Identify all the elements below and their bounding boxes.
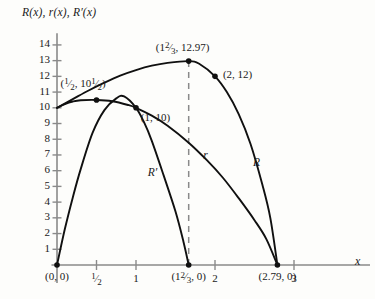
y-tick-label: 9 [14, 116, 50, 128]
curve-R [57, 61, 277, 265]
data-point-marker [212, 74, 218, 80]
y-tick-label: 10 [14, 100, 50, 112]
y-tick-label: 7 [14, 147, 50, 159]
data-point-label: (1⁄2, 101⁄2) [38, 77, 128, 89]
data-point-label: (0, 0) [12, 270, 102, 282]
curve-label-R: R [253, 156, 260, 168]
x-axis-title: x [355, 254, 361, 269]
data-point-marker [54, 262, 60, 268]
data-point-label: (12⁄3, 12.97) [156, 41, 210, 53]
curve-label-R: R′ [148, 166, 158, 178]
y-tick-label: 14 [14, 37, 50, 49]
data-point-label: (1, 10) [141, 111, 170, 123]
y-tick-label: 2 [14, 226, 50, 238]
data-point-marker [186, 262, 192, 268]
data-point-marker [275, 262, 281, 268]
curve-label-r: r [203, 149, 207, 161]
figure-canvas: R(x), r(x), R′(x) 1234567891011121314 1⁄… [0, 0, 375, 299]
y-tick-label: 1 [14, 242, 50, 254]
y-tick-label: 4 [14, 195, 50, 207]
data-point-marker [133, 105, 139, 111]
data-point-label: (2, 12) [223, 68, 252, 80]
curve-r [57, 100, 277, 265]
data-point-marker [186, 58, 192, 64]
y-tick-label: 3 [14, 210, 50, 222]
y-tick-label: 8 [14, 132, 50, 144]
data-point-label: (2.79, 0) [232, 270, 322, 282]
y-tick-label: 6 [14, 163, 50, 175]
data-point-marker [94, 97, 100, 103]
data-point-label: (12⁄3, 0) [144, 270, 234, 282]
y-tick-label: 13 [14, 53, 50, 65]
y-tick-label: 5 [14, 179, 50, 191]
